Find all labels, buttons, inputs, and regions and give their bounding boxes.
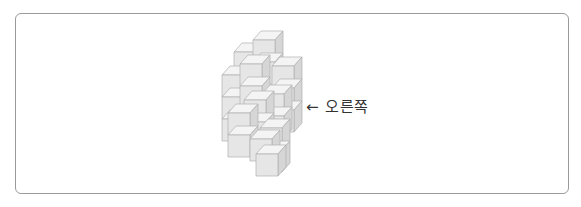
left-arrow-icon: ← <box>306 98 319 116</box>
cube-stack <box>222 31 302 176</box>
direction-text: 오른쪽 <box>325 98 369 116</box>
direction-label: ←오른쪽 <box>306 95 369 116</box>
cube-stack-figure <box>0 0 581 207</box>
